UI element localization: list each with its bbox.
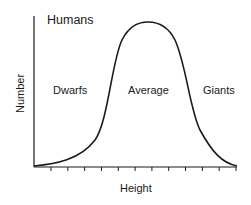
x-axis-label: Height — [120, 182, 152, 194]
y-axis-label: Number — [14, 74, 26, 113]
chart-canvas — [0, 0, 251, 205]
dwarfs-label: Dwarfs — [53, 84, 87, 96]
chart-title: Humans — [47, 14, 94, 26]
x-axis-ticks — [51, 167, 236, 171]
average-label: Average — [128, 84, 169, 96]
giants-label: Giants — [203, 84, 235, 96]
